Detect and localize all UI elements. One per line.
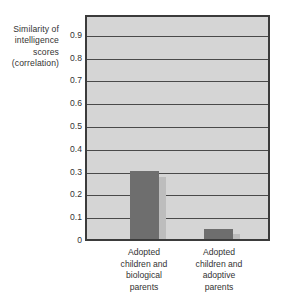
y-tick-label-0.3: 0.3 [60,168,82,177]
y-axis-title-line-1: Similarity of [2,24,59,35]
bar-adopted-biological-parents[interactable] [130,171,159,239]
gridline-0.8 [87,59,268,60]
gridline-0.2 [87,195,268,196]
y-axis-title-line-4: (correlation) [2,58,59,69]
x-category-2-line-1: Adopted [171,247,267,259]
bar-chart-figure: Similarity of intelligence scores (corre… [0,0,285,306]
gridline-0.5 [87,127,268,128]
y-tick-label-0.2: 0.2 [60,190,82,199]
gridline-0.6 [87,104,268,105]
bar-shadow-2 [232,234,240,239]
x-category-2-line-2: children and [171,259,267,271]
gridline-0.9 [87,36,268,37]
y-tick-label-0.6: 0.6 [60,99,82,108]
y-tick-label-0.8: 0.8 [60,54,82,63]
y-tick-label-0.5: 0.5 [60,122,82,131]
plot-area [85,15,270,241]
y-tick-label-0.1: 0.1 [60,213,82,222]
bar-shadow-1 [158,177,166,239]
gridline-0.3 [87,173,268,174]
x-category-label-2: Adopted children and adoptive parents [171,247,267,293]
y-axis-title: Similarity of intelligence scores (corre… [2,24,59,70]
x-category-2-line-4: parents [171,282,267,294]
y-axis-title-line-2: intelligence [2,35,59,46]
y-tick-label-0.4: 0.4 [60,145,82,154]
plot-inner [87,17,268,239]
x-category-2-line-3: adoptive [171,270,267,282]
y-axis-title-line-3: scores [2,47,59,58]
y-tick-label-0.7: 0.7 [60,76,82,85]
bar-adopted-adoptive-parents[interactable] [204,229,233,239]
gridline-0.7 [87,81,268,82]
y-tick-label-0.9: 0.9 [60,31,82,40]
gridline-0.4 [87,150,268,151]
y-tick-label-0: 0 [60,236,82,245]
gridline-0.1 [87,218,268,219]
